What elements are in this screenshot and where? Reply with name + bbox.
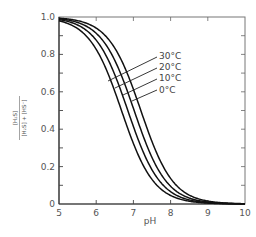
x-tick-label: 7 [131,208,137,218]
y-tick-label: 0.6 [41,87,56,97]
legend-label: 30°C [159,51,181,61]
curve-10c [59,19,245,204]
curve-30c [59,21,245,204]
x-tick-label: 8 [168,208,174,218]
legend-label: 20°C [159,62,181,72]
y-axis-label: [H₂S] [H₂S] + [HS⁻] [12,96,27,140]
y-tick-label: 1.0 [41,12,56,22]
x-tick-label: 10 [239,208,251,218]
x-tick-label: 6 [93,208,99,218]
legend-label: 0°C [159,85,176,95]
curves [59,18,245,204]
curve-0c [59,18,245,204]
legend-label: 10°C [159,73,181,83]
plot-border [59,17,245,204]
legend: 30°C20°C10°C0°C [159,51,181,95]
y-tick-label: 0 [49,199,55,209]
y-axis-label-denominator: [H₂S] + [HS⁻] [21,99,27,136]
y-tick-label: 0.2 [41,162,55,172]
titration-chart: 567891000.20.40.60.81.0 30°C20°C10°C0°C … [0,0,256,237]
x-axis-label: pH [144,216,156,226]
plot-frame [59,17,245,204]
x-tick-label: 9 [205,208,211,218]
leader-line [115,68,157,88]
axis-ticks: 567891000.20.40.60.81.0 [41,12,251,218]
y-tick-label: 0.8 [41,49,56,59]
curve-20c [59,20,245,204]
x-tick-label: 5 [56,208,62,218]
y-tick-label: 0.4 [41,124,56,134]
y-axis-label-numerator: [H₂S] [12,111,18,125]
